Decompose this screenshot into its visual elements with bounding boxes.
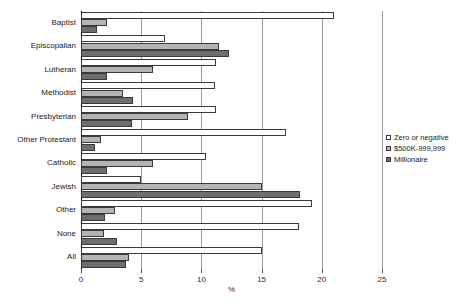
bar — [81, 120, 132, 127]
category-label: All — [67, 252, 76, 261]
bar — [81, 66, 153, 73]
x-tick-mark — [81, 269, 82, 273]
x-tick-mark — [262, 269, 263, 273]
bar-group: Other Protestant — [81, 128, 382, 151]
bar — [81, 113, 188, 120]
bar — [81, 223, 299, 230]
bar-group: Other — [81, 199, 382, 222]
category-label: Baptist — [52, 18, 76, 27]
legend-swatch-icon — [386, 157, 391, 162]
bar — [81, 144, 95, 151]
bar-group: Methodist — [81, 81, 382, 104]
bar — [81, 97, 133, 104]
legend-swatch-icon — [386, 135, 391, 140]
bar — [81, 238, 117, 245]
x-tick-mark — [201, 269, 202, 273]
x-tick-label: 15 — [247, 275, 277, 285]
bar — [81, 26, 97, 33]
bar-chart: 0510152025BaptistEpiscopalianLutheranMet… — [0, 0, 466, 302]
chart-legend: Zero or negative$500K-999,999Millionaire — [386, 133, 466, 166]
category-label: Lutheran — [44, 65, 76, 74]
bar — [81, 19, 107, 26]
category-label: Presbyterian — [31, 112, 76, 121]
bar — [81, 50, 229, 57]
category-label: Other Protestant — [17, 135, 76, 144]
bar-group: Episcopalian — [81, 34, 382, 57]
plot-area: 0510152025BaptistEpiscopalianLutheranMet… — [81, 11, 382, 269]
bar-group: All — [81, 246, 382, 269]
bar — [81, 82, 215, 89]
x-tick-label: 20 — [307, 275, 337, 285]
x-gridline — [382, 11, 383, 269]
bar — [81, 247, 262, 254]
x-tick-label: 0 — [66, 275, 96, 285]
legend-label: Zero or negative — [394, 133, 449, 142]
category-label: None — [57, 229, 76, 238]
category-label: Other — [56, 205, 76, 214]
x-tick-label: 5 — [126, 275, 156, 285]
x-tick-label: 10 — [186, 275, 216, 285]
bar — [81, 254, 129, 261]
bar — [81, 176, 141, 183]
bar — [81, 167, 107, 174]
category-label: Catholic — [47, 158, 76, 167]
bar — [81, 183, 262, 190]
bar — [81, 73, 107, 80]
x-axis-title: % — [81, 285, 382, 295]
category-label: Jewish — [52, 182, 76, 191]
legend-item[interactable]: $500K-999,999 — [386, 144, 466, 153]
bar — [81, 207, 115, 214]
legend-label: Millionaire — [394, 155, 428, 164]
bar — [81, 59, 216, 66]
bar-group: Lutheran — [81, 58, 382, 81]
bar — [81, 43, 219, 50]
legend-swatch-icon — [386, 146, 391, 151]
x-tick-mark — [382, 269, 383, 273]
x-tick-mark — [141, 269, 142, 273]
category-label: Episcopalian — [31, 41, 76, 50]
bar-group: None — [81, 222, 382, 245]
bar — [81, 35, 165, 42]
bar — [81, 214, 105, 221]
bar — [81, 191, 300, 198]
bar — [81, 230, 104, 237]
bar — [81, 90, 123, 97]
bar — [81, 106, 216, 113]
bar — [81, 12, 334, 19]
legend-label: $500K-999,999 — [394, 144, 445, 153]
bar-group: Jewish — [81, 175, 382, 198]
x-tick-mark — [322, 269, 323, 273]
bar — [81, 153, 206, 160]
bar — [81, 160, 153, 167]
category-label: Methodist — [41, 88, 76, 97]
legend-item[interactable]: Zero or negative — [386, 133, 466, 142]
bar — [81, 200, 312, 207]
bar — [81, 261, 126, 268]
x-tick-label: 25 — [367, 275, 397, 285]
bar — [81, 136, 101, 143]
bar — [81, 129, 286, 136]
bar-group: Catholic — [81, 152, 382, 175]
bar-group: Baptist — [81, 11, 382, 34]
legend-item[interactable]: Millionaire — [386, 155, 466, 164]
bar-group: Presbyterian — [81, 105, 382, 128]
